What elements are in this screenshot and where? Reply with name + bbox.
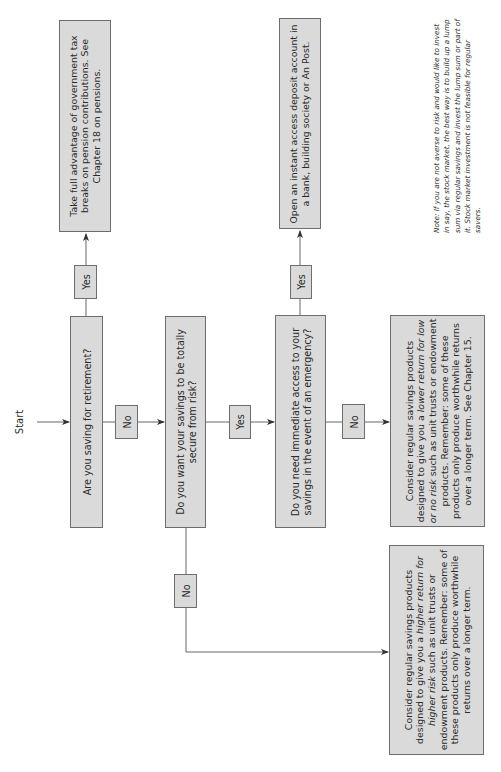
label-q2-yes: Yes — [229, 405, 251, 439]
question-access: Do you need immediate access to your sav… — [275, 315, 326, 528]
footnote: Note: If you are not averse to risk and … — [432, 17, 483, 233]
question-retirement-text: Are you saving for retirement? — [70, 316, 103, 528]
question-access-text: Do you need immediate access to your sav… — [275, 319, 326, 524]
start-label: Start — [14, 410, 25, 434]
label-q3-no: No — [342, 404, 365, 439]
question-secure-text: Do you want your savings to be totally s… — [165, 322, 206, 522]
outcome-pension: Take full advantage of government tax br… — [59, 20, 111, 232]
outcome-high-risk: Consider regular savings products design… — [389, 545, 484, 755]
question-retirement: Are you saving for retirement? — [70, 316, 103, 528]
label-q1-yes: Yes — [74, 265, 97, 299]
outcome-low-risk-text: Consider regular savings products design… — [390, 318, 485, 524]
outcome-low-risk: Consider regular savings products design… — [390, 315, 485, 527]
label-q1-no: No — [115, 405, 138, 439]
label-q2-no: No — [174, 574, 197, 608]
label-q3-yes: Yes — [290, 265, 312, 299]
outcome-pension-text: Take full advantage of government tax br… — [59, 23, 111, 229]
outcome-high-risk-text: Consider regular savings products design… — [389, 549, 484, 751]
question-secure: Do you want your savings to be totally s… — [165, 316, 206, 528]
outcome-deposit-text: Open an instant access deposit account i… — [279, 21, 321, 227]
outcome-deposit: Open an instant access deposit account i… — [279, 18, 321, 229]
